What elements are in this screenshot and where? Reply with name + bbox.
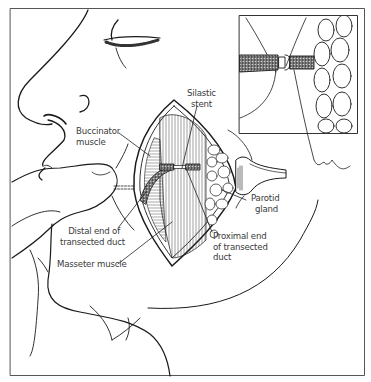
label-line: gland [251,204,279,215]
label-silastic-stent: Silastic stent [187,88,216,109]
label-line: transected duct [60,237,120,248]
label-masseter-muscle: Masseter muscle [57,259,127,270]
label-line: Parotid [251,193,279,204]
label-line: muscle [76,137,120,148]
label-line: Masseter muscle [57,259,127,270]
label-line: stent [187,99,216,110]
label-line: Distal end of [60,226,120,237]
label-distal-end: Distal end of transected duct [60,226,120,247]
label-line: of transected [213,242,268,253]
label-line: Buccinator [76,126,120,137]
label-parotid-gland: Parotid gland [251,193,279,214]
label-line: Silastic [187,88,216,99]
label-line: Proximal end [213,231,268,242]
illustration [0,0,371,382]
label-buccinator-muscle: Buccinator muscle [76,126,120,147]
label-proximal-end: Proximal end of transected duct [213,231,268,263]
label-line: duct [213,252,268,263]
retractor [236,157,286,195]
